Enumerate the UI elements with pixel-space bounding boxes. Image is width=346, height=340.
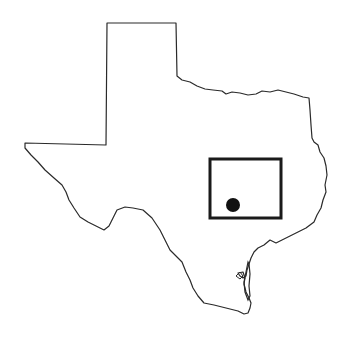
locator-box	[210, 159, 281, 218]
location-marker-dot	[226, 198, 240, 212]
texas-locator-map	[0, 0, 346, 340]
map-canvas	[0, 0, 346, 340]
